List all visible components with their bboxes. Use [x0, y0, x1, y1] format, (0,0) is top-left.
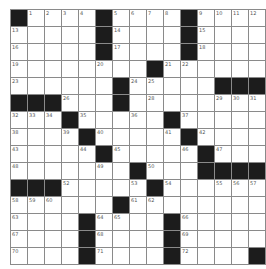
crossword-cell[interactable]: [232, 197, 249, 214]
crossword-cell[interactable]: [28, 27, 45, 44]
crossword-cell[interactable]: [45, 78, 62, 95]
crossword-cell[interactable]: [96, 197, 113, 214]
crossword-cell[interactable]: 18: [198, 44, 215, 61]
crossword-cell[interactable]: [232, 146, 249, 163]
crossword-cell[interactable]: [28, 44, 45, 61]
crossword-cell[interactable]: [62, 61, 79, 78]
crossword-cell[interactable]: 31: [249, 95, 266, 112]
crossword-cell[interactable]: 38: [11, 129, 28, 146]
crossword-cell[interactable]: [79, 163, 96, 180]
crossword-cell[interactable]: 60: [45, 197, 62, 214]
crossword-cell[interactable]: 11: [232, 10, 249, 27]
crossword-cell[interactable]: [113, 112, 130, 129]
crossword-cell[interactable]: 72: [181, 248, 198, 265]
crossword-cell[interactable]: [45, 146, 62, 163]
crossword-cell[interactable]: [147, 214, 164, 231]
crossword-cell[interactable]: 45: [113, 146, 130, 163]
crossword-cell[interactable]: [215, 197, 232, 214]
crossword-cell[interactable]: 47: [215, 146, 232, 163]
crossword-cell[interactable]: [198, 112, 215, 129]
crossword-cell[interactable]: 33: [28, 112, 45, 129]
crossword-cell[interactable]: 55: [215, 180, 232, 197]
crossword-cell[interactable]: 12: [249, 10, 266, 27]
crossword-cell[interactable]: [79, 180, 96, 197]
crossword-cell[interactable]: [215, 129, 232, 146]
crossword-cell[interactable]: [215, 214, 232, 231]
crossword-cell[interactable]: [215, 27, 232, 44]
crossword-cell[interactable]: [28, 214, 45, 231]
crossword-cell[interactable]: 65: [113, 214, 130, 231]
crossword-cell[interactable]: 62: [147, 197, 164, 214]
crossword-cell[interactable]: [62, 78, 79, 95]
crossword-cell[interactable]: 56: [232, 180, 249, 197]
crossword-cell[interactable]: [62, 163, 79, 180]
crossword-cell[interactable]: [79, 197, 96, 214]
crossword-cell[interactable]: [198, 197, 215, 214]
crossword-cell[interactable]: [79, 44, 96, 61]
crossword-cell[interactable]: [130, 27, 147, 44]
crossword-cell[interactable]: [215, 248, 232, 265]
crossword-cell[interactable]: [147, 248, 164, 265]
crossword-cell[interactable]: [62, 248, 79, 265]
crossword-cell[interactable]: [130, 95, 147, 112]
crossword-cell[interactable]: 28: [147, 95, 164, 112]
crossword-cell[interactable]: 67: [11, 231, 28, 248]
crossword-cell[interactable]: [164, 146, 181, 163]
crossword-cell[interactable]: [62, 231, 79, 248]
crossword-cell[interactable]: 59: [28, 197, 45, 214]
crossword-cell[interactable]: 70: [11, 248, 28, 265]
crossword-cell[interactable]: [113, 163, 130, 180]
crossword-cell[interactable]: [232, 112, 249, 129]
crossword-cell[interactable]: [62, 197, 79, 214]
crossword-cell[interactable]: [130, 248, 147, 265]
crossword-cell[interactable]: [232, 214, 249, 231]
crossword-cell[interactable]: 52: [62, 180, 79, 197]
crossword-cell[interactable]: 5: [113, 10, 130, 27]
crossword-cell[interactable]: 24: [130, 78, 147, 95]
crossword-cell[interactable]: [45, 248, 62, 265]
crossword-cell[interactable]: [164, 44, 181, 61]
crossword-cell[interactable]: [113, 180, 130, 197]
crossword-cell[interactable]: [45, 163, 62, 180]
crossword-cell[interactable]: [198, 214, 215, 231]
crossword-cell[interactable]: 44: [79, 146, 96, 163]
crossword-cell[interactable]: [96, 78, 113, 95]
crossword-cell[interactable]: [249, 61, 266, 78]
crossword-cell[interactable]: 54: [164, 180, 181, 197]
crossword-cell[interactable]: [181, 95, 198, 112]
crossword-cell[interactable]: [28, 61, 45, 78]
crossword-cell[interactable]: [249, 231, 266, 248]
crossword-cell[interactable]: 1: [28, 10, 45, 27]
crossword-cell[interactable]: [147, 146, 164, 163]
crossword-cell[interactable]: [249, 27, 266, 44]
crossword-cell[interactable]: 3: [62, 10, 79, 27]
crossword-cell[interactable]: 53: [130, 180, 147, 197]
crossword-cell[interactable]: 14: [113, 27, 130, 44]
crossword-cell[interactable]: 26: [62, 95, 79, 112]
crossword-cell[interactable]: [215, 44, 232, 61]
crossword-cell[interactable]: [28, 231, 45, 248]
crossword-cell[interactable]: 30: [232, 95, 249, 112]
crossword-cell[interactable]: [79, 27, 96, 44]
crossword-cell[interactable]: [113, 129, 130, 146]
crossword-cell[interactable]: [181, 78, 198, 95]
crossword-cell[interactable]: [181, 163, 198, 180]
crossword-cell[interactable]: [232, 44, 249, 61]
crossword-cell[interactable]: [130, 231, 147, 248]
crossword-cell[interactable]: 71: [96, 248, 113, 265]
crossword-cell[interactable]: [164, 163, 181, 180]
crossword-cell[interactable]: [147, 27, 164, 44]
crossword-cell[interactable]: [164, 95, 181, 112]
crossword-cell[interactable]: [130, 214, 147, 231]
crossword-cell[interactable]: [232, 129, 249, 146]
crossword-cell[interactable]: 22: [181, 61, 198, 78]
crossword-cell[interactable]: [113, 231, 130, 248]
crossword-cell[interactable]: [147, 44, 164, 61]
crossword-cell[interactable]: [28, 129, 45, 146]
crossword-cell[interactable]: 17: [113, 44, 130, 61]
crossword-cell[interactable]: [113, 61, 130, 78]
crossword-cell[interactable]: [232, 248, 249, 265]
crossword-cell[interactable]: 25: [147, 78, 164, 95]
crossword-cell[interactable]: [198, 95, 215, 112]
crossword-cell[interactable]: [198, 78, 215, 95]
